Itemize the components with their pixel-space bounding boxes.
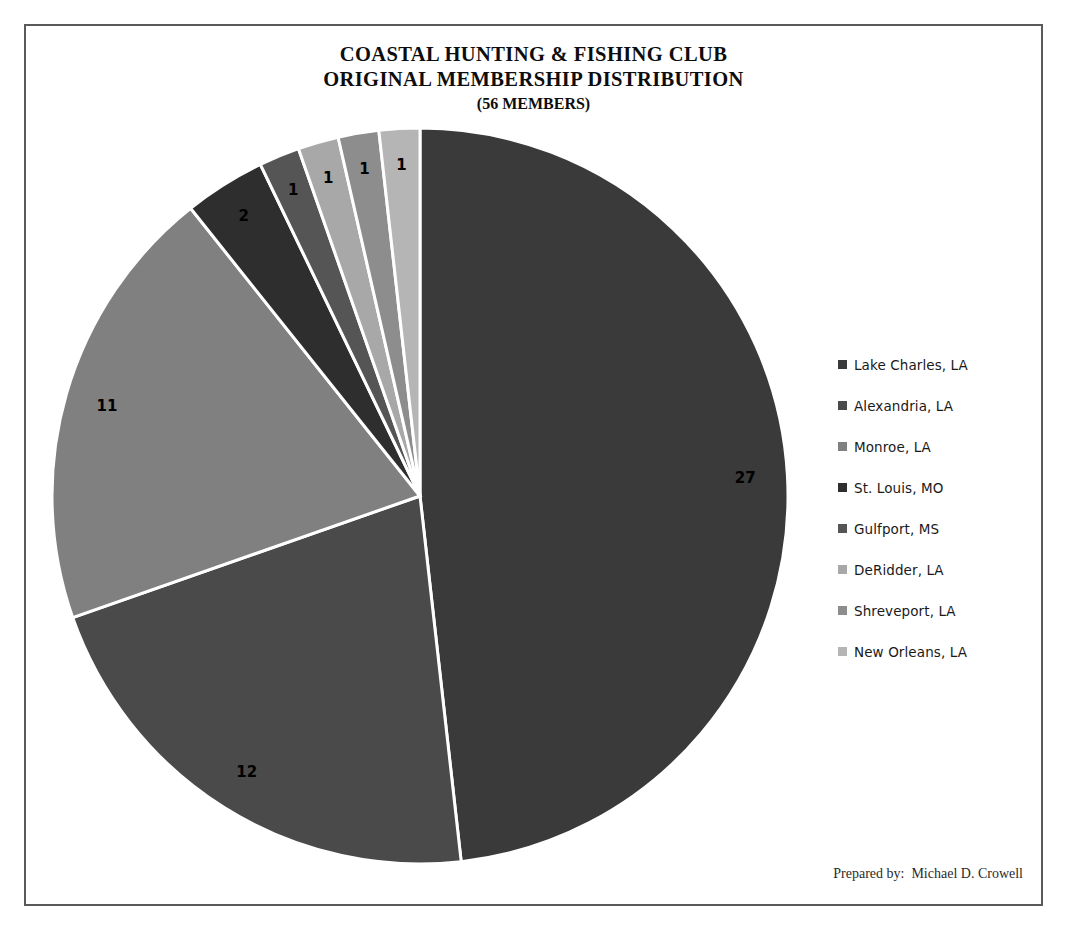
- pie-chart-area: 27121121111: [50, 126, 790, 866]
- legend-item: Gulfport, MS: [838, 508, 1038, 549]
- pie-slice-data-label: 1: [396, 156, 406, 174]
- legend-color-swatch: [838, 647, 847, 656]
- legend-item-label: St. Louis, MO: [854, 480, 944, 496]
- chart-legend: Lake Charles, LAAlexandria, LAMonroe, LA…: [838, 344, 1038, 672]
- pie-slice-data-label: 1: [359, 160, 369, 178]
- chart-title-line-2: ORIGINAL MEMBERSHIP DISTRIBUTION: [26, 67, 1041, 92]
- legend-color-swatch: [838, 606, 847, 615]
- legend-item-label: Lake Charles, LA: [854, 357, 968, 373]
- legend-item: Shreveport, LA: [838, 590, 1038, 631]
- legend-color-swatch: [838, 524, 847, 533]
- chart-subtitle-member-count: (56 MEMBERS): [26, 93, 1041, 115]
- legend-color-swatch: [838, 401, 847, 410]
- legend-item: DeRidder, LA: [838, 549, 1038, 590]
- chart-title-line-1: COASTAL HUNTING & FISHING CLUB: [26, 42, 1041, 67]
- pie-slice-data-label: 27: [735, 469, 756, 487]
- legend-item-label: Monroe, LA: [854, 439, 931, 455]
- legend-color-swatch: [838, 442, 847, 451]
- pie-slice-data-label: 1: [323, 169, 333, 187]
- pie-chart-svg: 27121121111: [50, 126, 790, 866]
- legend-color-swatch: [838, 565, 847, 574]
- pie-slice-data-label: 2: [239, 207, 249, 225]
- pie-slice-data-label: 12: [236, 763, 257, 781]
- pie-slice-data-label: 11: [97, 397, 118, 415]
- legend-item-label: Shreveport, LA: [854, 603, 956, 619]
- pie-slice-group: [52, 128, 788, 864]
- legend-item: Alexandria, LA: [838, 385, 1038, 426]
- legend-item-label: DeRidder, LA: [854, 562, 944, 578]
- legend-item-label: Gulfport, MS: [854, 521, 939, 537]
- legend-item: Lake Charles, LA: [838, 344, 1038, 385]
- prepared-by-credit: Prepared by: Michael D. Crowell: [833, 866, 1023, 882]
- chart-frame: COASTAL HUNTING & FISHING CLUB ORIGINAL …: [24, 24, 1043, 906]
- legend-color-swatch: [838, 360, 847, 369]
- legend-item: Monroe, LA: [838, 426, 1038, 467]
- pie-slice: [420, 128, 788, 862]
- legend-color-swatch: [838, 483, 847, 492]
- pie-slice-data-label: 1: [288, 181, 298, 199]
- legend-item: New Orleans, LA: [838, 631, 1038, 672]
- legend-item: St. Louis, MO: [838, 467, 1038, 508]
- chart-title-block: COASTAL HUNTING & FISHING CLUB ORIGINAL …: [26, 42, 1041, 115]
- legend-item-label: New Orleans, LA: [854, 644, 967, 660]
- legend-item-label: Alexandria, LA: [854, 398, 953, 414]
